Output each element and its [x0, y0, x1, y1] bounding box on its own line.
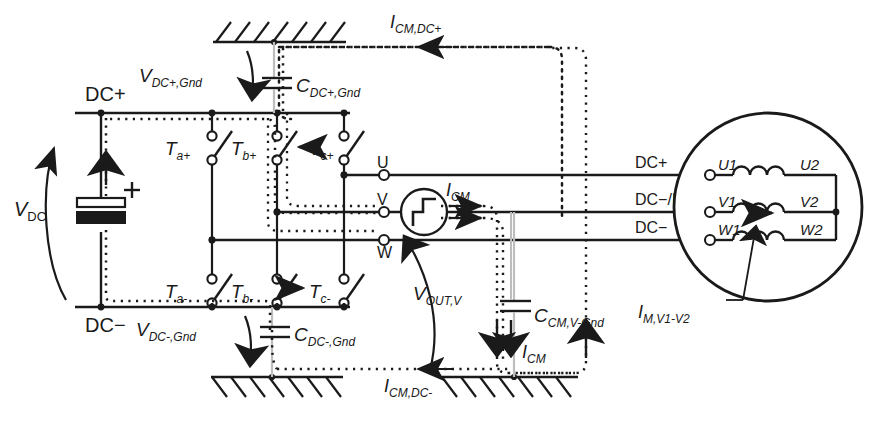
- vdc-arrow: [46, 148, 66, 300]
- voltage-label-vdc-minus-gnd: VDC-,Gnd: [136, 319, 196, 344]
- capacitor-cdc-minus-gnd: [260, 307, 290, 377]
- vdc-plus-gnd-arrow: [247, 51, 253, 100]
- pwm-step-source-symbol: [401, 189, 447, 235]
- winding-label-v2: V2: [800, 193, 819, 210]
- switch-label-tb-minus: Tb-: [231, 281, 253, 306]
- current-label-icm-dc-minus: ICM,DC-: [384, 376, 432, 400]
- dotted-path-through-leg-b: [268, 113, 379, 231]
- capacitor-label-cdc-plus-gnd: CDC+,Gnd: [296, 75, 360, 100]
- schematic-canvas: VDC DC+ DC− Ta+ Ta- Tb+ Tb-: [0, 0, 882, 426]
- capacitor-cdc-plus-gnd: [262, 42, 292, 113]
- phase-terminal-label-u: U: [377, 154, 389, 171]
- cable-label-dc-minus: DC−: [635, 219, 667, 236]
- switch-label-tc-plus: Tc+: [309, 138, 334, 163]
- vdc-label: VDC: [14, 198, 46, 224]
- winding-label-w2: W2: [800, 221, 823, 238]
- dc-minus-rail-label: DC−: [85, 314, 126, 336]
- switch-pointer-arrows: [285, 147, 318, 288]
- inverter-leg-c: [339, 110, 364, 311]
- inverter-leg-a: [207, 110, 232, 311]
- current-label-icm-dc-plus: ICM,DC+: [390, 12, 441, 36]
- capacitor-polarity-plus: [124, 182, 140, 198]
- current-label-icm-output: ICM: [446, 180, 470, 204]
- winding-label-u2: U2: [800, 156, 820, 173]
- voltage-label-vdc-plus-gnd: VDC+,Gnd: [139, 65, 202, 90]
- dc-plus-rail-label: DC+: [85, 83, 126, 105]
- cable-label-dc-plus: DC+: [635, 154, 667, 171]
- ground-symbol-bottom-right: [441, 374, 578, 397]
- dotted-loop-dc-plus-rail: [106, 118, 379, 213]
- current-label-im-v1-v2: IM,V1-V2: [638, 302, 690, 326]
- switch-label-tc-minus: Tc-: [309, 281, 331, 306]
- capacitor-label-ccm-v-gnd: CCM,V-Gnd: [534, 305, 604, 330]
- switch-label-ta-plus: Ta+: [165, 138, 190, 163]
- ground-symbol-bottom-left: [211, 374, 343, 397]
- winding-label-w1: W1: [718, 221, 741, 238]
- capacitor-label-cdc-minus-gnd: CDC-,Gnd: [294, 324, 355, 349]
- circuit-diagram-svg: VDC DC+ DC− Ta+ Ta- Tb+ Tb-: [0, 0, 882, 426]
- dc-link-capacitor: [77, 110, 125, 311]
- ground-symbol-top: [213, 22, 346, 45]
- vdc-minus-gnd-arrow: [245, 316, 251, 366]
- switch-label-tb-plus: Tb+: [231, 138, 256, 163]
- current-label-icm-to-ground: ICM: [522, 342, 546, 366]
- phase-terminal-label-w: W: [377, 244, 393, 261]
- phase-terminal-label-v: V: [377, 191, 388, 208]
- dotted-loop-dc-minus-rail: [106, 230, 270, 330]
- voltage-label-vout-v: VOUT,V: [413, 283, 462, 308]
- winding-label-v1: V1: [718, 193, 736, 210]
- winding-label-u1: U1: [718, 156, 737, 173]
